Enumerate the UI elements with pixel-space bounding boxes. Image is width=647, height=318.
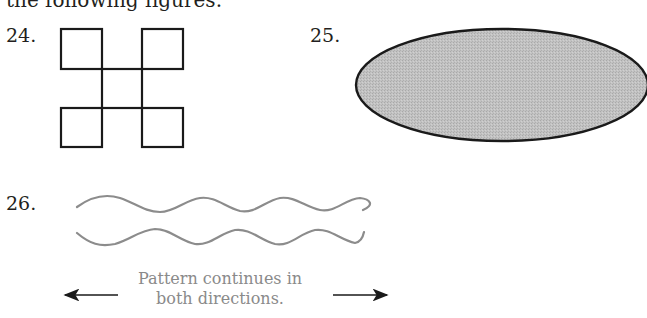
square-top-right [142,29,183,69]
wave-top [77,196,370,212]
square-center [102,69,142,108]
caption-line-2: both directions. [120,289,320,309]
figure-24-squares [61,29,183,147]
caption-line-1: Pattern continues in [120,269,320,289]
figures-canvas [0,0,647,318]
square-top-left [61,29,102,69]
pattern-caption: Pattern continues in both directions. [120,269,320,309]
figure-26-waves [77,196,370,245]
figure-25-ellipse [356,29,647,141]
square-bottom-left [61,108,102,147]
square-bottom-right [142,108,183,147]
wave-bottom [77,229,364,245]
